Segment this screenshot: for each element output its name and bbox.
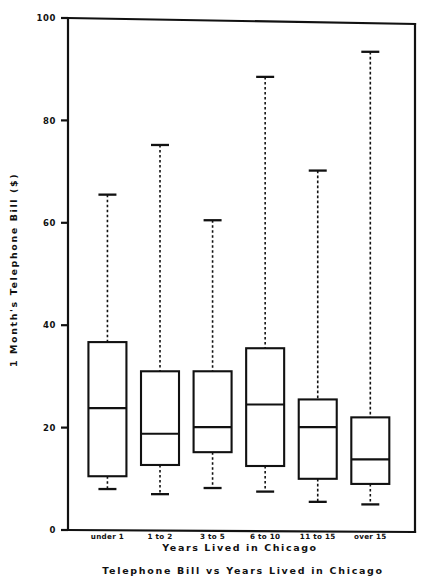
x-category-label-4: 11 to 15 bbox=[300, 532, 336, 541]
y-tick-label-80: 80 bbox=[43, 116, 56, 126]
box-iqr-1 bbox=[141, 371, 179, 465]
box-plot-group-3 bbox=[246, 77, 284, 492]
box-iqr-5 bbox=[351, 417, 389, 484]
y-axis-title: 1 Month's Telephone Bill ($) bbox=[8, 173, 19, 367]
x-category-label-3: 6 to 10 bbox=[250, 532, 280, 541]
box-iqr-4 bbox=[299, 399, 337, 478]
x-category-label-1: 1 to 2 bbox=[147, 532, 172, 541]
figure-title: Telephone Bill vs Years Lived in Chicago bbox=[102, 565, 384, 576]
y-tick-label-60: 60 bbox=[43, 218, 56, 228]
box-plot-figure: 020406080100under 11 to 23 to 56 to 1011… bbox=[0, 0, 422, 577]
box-iqr-3 bbox=[246, 348, 284, 466]
x-axis-title: Years Lived in Chicago bbox=[161, 542, 317, 553]
y-tick-label-100: 100 bbox=[36, 13, 56, 23]
chart-canvas: 020406080100under 11 to 23 to 56 to 1011… bbox=[0, 0, 422, 577]
box-plot-group-0 bbox=[88, 195, 126, 489]
x-category-label-0: under 1 bbox=[91, 532, 124, 541]
box-plot-group-4 bbox=[299, 171, 337, 502]
plot-top-border bbox=[68, 18, 415, 24]
box-plot-group-5 bbox=[351, 52, 389, 505]
x-category-label-2: 3 to 5 bbox=[200, 532, 225, 541]
box-plot-group-1 bbox=[141, 145, 179, 494]
y-tick-label-20: 20 bbox=[43, 423, 56, 433]
y-tick-label-0: 0 bbox=[49, 525, 56, 535]
x-category-label-5: over 15 bbox=[354, 532, 387, 541]
box-iqr-2 bbox=[194, 371, 232, 452]
y-tick-label-40: 40 bbox=[43, 320, 56, 330]
box-plot-group-2 bbox=[194, 220, 232, 488]
